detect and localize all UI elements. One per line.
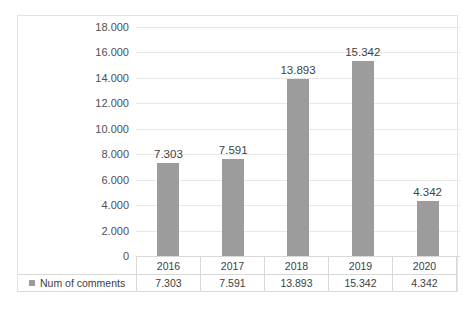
data-table-category-cell: 2020 — [392, 256, 457, 274]
bar[interactable] — [287, 79, 309, 256]
bar-value-label: 13.893 — [280, 64, 315, 76]
chart-container: 02.0004.0006.0008.00010.00012.00014.0001… — [17, 15, 458, 292]
data-table-value-cell: 4.342 — [392, 274, 457, 292]
data-table-corner-cell — [18, 256, 136, 274]
legend-entry[interactable]: Num of comments — [18, 274, 136, 292]
data-table-category-row: 20162017201820192020 — [18, 256, 457, 274]
y-axis-tick-label: 2.000 — [101, 225, 129, 236]
bar[interactable] — [157, 163, 179, 256]
legend-label: Num of comments — [40, 277, 125, 289]
bar[interactable] — [222, 159, 244, 256]
data-table-category-cell: 2018 — [264, 256, 328, 274]
y-axis-tick-label: 6.000 — [101, 174, 129, 185]
bar-series-group: 7.3037.59113.89315.3424.342 — [136, 27, 460, 256]
data-table-category-cell: 2019 — [328, 256, 392, 274]
y-axis-tick-label: 4.000 — [101, 200, 129, 211]
bar-value-label: 15.342 — [345, 46, 380, 58]
y-axis-tick-label: 12.000 — [95, 98, 129, 109]
data-table-category-cell: 2017 — [200, 256, 264, 274]
bar[interactable] — [352, 61, 374, 256]
bar-value-label: 4.342 — [413, 186, 442, 198]
data-table-value-cell: 15.342 — [328, 274, 392, 292]
data-table-value-cell: 7.303 — [136, 274, 200, 292]
bar-slot: 13.893 — [266, 27, 331, 256]
bar[interactable] — [417, 201, 439, 256]
bar-slot: 15.342 — [330, 27, 395, 256]
bar-slot: 4.342 — [395, 27, 460, 256]
legend-square-marker — [29, 280, 35, 286]
chart-data-table: 20162017201820192020 Num of comments 7.3… — [18, 256, 457, 292]
bar-slot: 7.591 — [201, 27, 266, 256]
y-axis-tick-label: 8.000 — [101, 149, 129, 160]
y-axis-tick-label: 14.000 — [95, 72, 129, 83]
y-axis-tick-label: 16.000 — [95, 47, 129, 58]
y-axis-tick-label: 10.000 — [95, 123, 129, 134]
data-table-value-cell: 13.893 — [264, 274, 328, 292]
bar-slot: 7.303 — [136, 27, 201, 256]
data-table-value-row: Num of comments 7.3037.59113.89315.3424.… — [18, 274, 457, 292]
data-table-value-cell: 7.591 — [200, 274, 264, 292]
bar-value-label: 7.303 — [154, 148, 183, 160]
data-table-category-cell: 2016 — [136, 256, 200, 274]
y-axis-tick-label: 18.000 — [95, 22, 129, 33]
bar-value-label: 7.591 — [219, 144, 248, 156]
plot-area: 02.0004.0006.0008.00010.00012.00014.0001… — [136, 27, 460, 256]
